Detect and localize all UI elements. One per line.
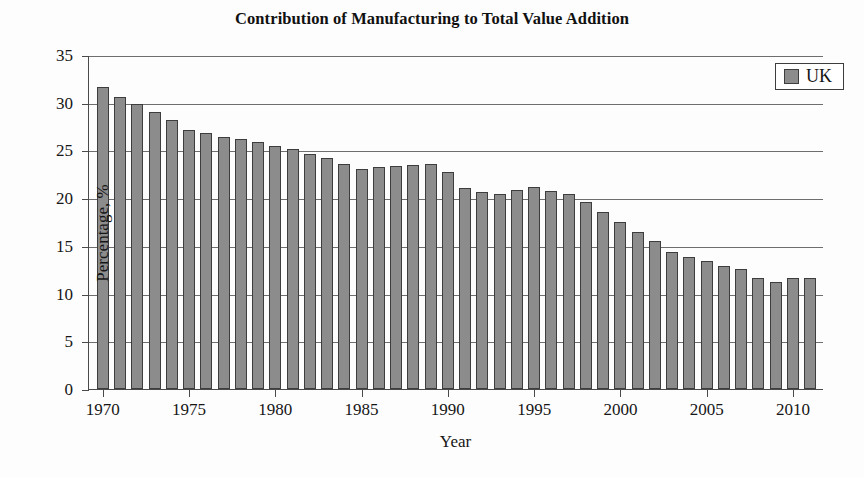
bar-1989: [425, 164, 437, 389]
bar-2002: [649, 241, 661, 389]
x-tick-mark-2010: [793, 390, 794, 397]
x-axis-title: Year: [88, 432, 823, 452]
bar-1971: [114, 97, 126, 389]
x-tick-mark-1990: [448, 390, 449, 397]
bar-1999: [597, 212, 609, 389]
bar-1979: [252, 142, 264, 389]
y-tick-label-35: 35: [27, 46, 73, 66]
bar-1974: [166, 120, 178, 389]
bar-1983: [321, 158, 333, 389]
bar-1976: [200, 133, 212, 389]
bar-1990: [442, 172, 454, 389]
bar-2010: [787, 278, 799, 389]
x-tick-mark-1985: [362, 390, 363, 397]
bar-1972: [131, 104, 143, 389]
legend-label-uk: UK: [806, 67, 832, 85]
bar-1987: [390, 166, 402, 389]
x-tick-mark-2005: [707, 390, 708, 397]
bar-1993: [494, 194, 506, 389]
y-tick-label-5: 5: [27, 332, 73, 352]
y-tick-label-10: 10: [27, 285, 73, 305]
bar-1994: [511, 190, 523, 389]
x-tick-label-1985: 1985: [327, 400, 397, 420]
bar-1998: [580, 202, 592, 389]
y-tick-label-15: 15: [27, 237, 73, 257]
bar-1980: [269, 146, 281, 389]
x-tick-mark-1995: [534, 390, 535, 397]
bar-2006: [718, 266, 730, 389]
y-axis-title: Percentage, %: [93, 118, 113, 348]
bar-2011: [804, 278, 816, 389]
chart-figure: Contribution of Manufacturing to Total V…: [0, 0, 864, 477]
y-tick-mark-35: [82, 56, 89, 57]
x-tick-label-2005: 2005: [672, 400, 742, 420]
bar-2007: [735, 269, 747, 389]
y-tick-label-25: 25: [27, 141, 73, 161]
y-tick-mark-30: [82, 104, 89, 105]
bar-2001: [632, 232, 644, 389]
bar-1985: [356, 169, 368, 389]
bar-1991: [459, 188, 471, 389]
y-tick-mark-10: [82, 295, 89, 296]
x-tick-label-1995: 1995: [499, 400, 569, 420]
x-tick-mark-1980: [275, 390, 276, 397]
y-tick-label-0: 0: [27, 380, 73, 400]
x-tick-label-2010: 2010: [758, 400, 828, 420]
bar-2004: [683, 257, 695, 389]
bar-1997: [563, 194, 575, 389]
legend: UK: [775, 63, 844, 90]
bar-1977: [218, 137, 230, 389]
bar-1973: [149, 112, 161, 389]
x-tick-mark-1975: [189, 390, 190, 397]
bar-2003: [666, 252, 678, 389]
bar-1988: [407, 165, 419, 389]
page-title: Contribution of Manufacturing to Total V…: [0, 9, 864, 29]
bar-1984: [338, 164, 350, 389]
bar-2008: [752, 278, 764, 389]
x-tick-label-1970: 1970: [68, 400, 138, 420]
bar-2000: [614, 222, 626, 389]
y-tick-mark-15: [82, 247, 89, 248]
bar-1978: [235, 139, 247, 389]
bar-1986: [373, 167, 385, 389]
x-tick-label-1980: 1980: [240, 400, 310, 420]
x-tick-mark-1970: [103, 390, 104, 397]
y-tick-label-30: 30: [27, 94, 73, 114]
bar-1981: [287, 149, 299, 389]
bar-2009: [770, 282, 782, 389]
bar-1996: [545, 191, 557, 389]
legend-swatch-uk: [784, 69, 799, 84]
y-tick-label-20: 20: [27, 189, 73, 209]
bar-1995: [528, 187, 540, 389]
bar-1975: [183, 130, 195, 389]
bar-series-uk: [89, 56, 823, 389]
bar-1982: [304, 154, 316, 389]
y-tick-mark-25: [82, 151, 89, 152]
plot-area: 05101520253035 1970197519801985199019952…: [88, 56, 823, 390]
y-tick-mark-5: [82, 342, 89, 343]
x-tick-label-2000: 2000: [585, 400, 655, 420]
x-tick-label-1990: 1990: [413, 400, 483, 420]
y-tick-mark-0: [82, 390, 89, 391]
x-tick-mark-2000: [620, 390, 621, 397]
bar-1992: [476, 192, 488, 389]
x-tick-label-1975: 1975: [154, 400, 224, 420]
bar-2005: [701, 261, 713, 389]
y-tick-mark-20: [82, 199, 89, 200]
